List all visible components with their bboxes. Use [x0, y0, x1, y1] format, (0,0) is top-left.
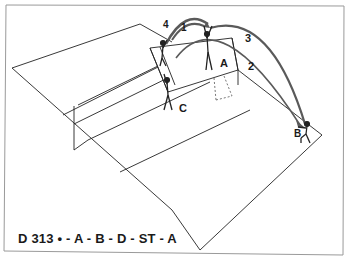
label-player-c: C — [179, 103, 187, 114]
far-court — [12, 24, 172, 210]
label-path-1: 1 — [181, 23, 187, 33]
label-path-4: 4 — [163, 20, 169, 30]
frame-border — [4, 5, 344, 255]
volleyball-drill-diagram: A B C 1 2 3 4 D 313 • - A - B - D - ST -… — [0, 0, 348, 258]
drill-caption: D 313 • - A - B - D - ST - A — [18, 231, 177, 246]
label-player-b: B — [294, 129, 301, 139]
label-player-a: A — [220, 58, 228, 69]
dashed-ball-path — [214, 76, 232, 100]
label-path-3: 3 — [245, 33, 251, 44]
court-lines — [63, 62, 250, 172]
label-path-2: 2 — [248, 61, 254, 72]
near-court — [172, 70, 322, 250]
